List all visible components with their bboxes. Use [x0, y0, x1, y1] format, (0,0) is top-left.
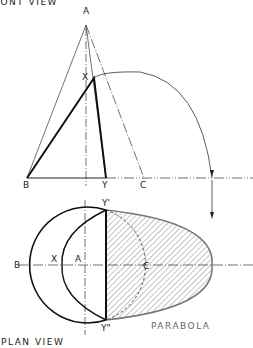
truncated-solid-outline — [27, 78, 106, 178]
label-b-front: B — [23, 180, 29, 190]
front-view-title: FRONT VIEW — [0, 0, 58, 7]
label-y-double-prime: Y" — [100, 323, 111, 333]
label-y-prime: Y' — [101, 198, 110, 208]
label-x-plan: X — [51, 254, 57, 264]
label-a-plan: A — [75, 254, 82, 264]
generator-a-to-c — [86, 25, 144, 178]
projection-arrowhead-icon — [210, 212, 214, 219]
label-y-front: Y — [101, 180, 108, 190]
rotation-arc — [94, 72, 212, 178]
arc-arrowhead-icon — [210, 170, 214, 177]
parabola-label: PARABOLA — [151, 321, 211, 331]
label-x-front: X — [82, 72, 88, 82]
label-b-plan: B — [14, 260, 20, 270]
plan-view-title: PLAN VIEW — [1, 337, 64, 347]
label-c-front: C — [140, 180, 146, 190]
label-apex-a: A — [83, 6, 90, 16]
cone-section-drawing: FRONT VIEW A X B Y C Y' Y" B X A C PARAB… — [0, 0, 253, 348]
label-c-plan: C — [143, 261, 149, 271]
